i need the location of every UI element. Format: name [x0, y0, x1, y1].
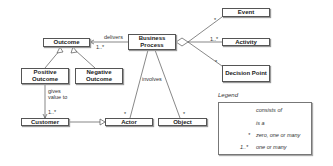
legend-zero-one-many: zero, one or many [256, 132, 300, 138]
entity-negative-outcome[interactable]: Negative Outcome [75, 68, 123, 84]
entity-label: Activity [235, 39, 257, 46]
entity-event[interactable]: Event [222, 8, 270, 17]
legend-one-or-many: one or many [256, 144, 287, 150]
entity-actor[interactable]: Actor [105, 118, 153, 126]
relation-object-multiplicity: * [183, 111, 185, 117]
entity-label: Negative Outcome [76, 69, 122, 83]
entity-label: Decision Point [225, 70, 267, 77]
entity-decision-point[interactable]: Decision Point [222, 65, 270, 82]
legend-one-many-symbol: 1..* [240, 144, 248, 150]
entity-positive-outcome[interactable]: Positive Outcome [21, 68, 69, 84]
relation-actor-multiplicity: * [124, 111, 126, 117]
entity-label: Object [173, 119, 192, 126]
relation-event-multiplicity: * [214, 17, 216, 23]
entity-customer[interactable]: Customer [21, 118, 69, 126]
relation-delivers-multiplicity: 1..* [96, 44, 104, 50]
relation-delivers-label: delivers [104, 34, 123, 40]
entity-label: Positive Outcome [22, 69, 68, 83]
legend-is-a: is a [256, 120, 265, 126]
entity-label: Outcome [53, 39, 79, 46]
entity-outcome[interactable]: Outcome [43, 38, 90, 47]
relation-involves-label: involves [142, 76, 162, 82]
relation-decision-multiplicity: * [215, 59, 217, 65]
entity-business-process[interactable]: Business Process [128, 34, 176, 50]
entity-object[interactable]: Object [158, 118, 207, 126]
entity-activity[interactable]: Activity [222, 38, 270, 46]
relation-activity-multiplicity: 1..* [210, 36, 218, 42]
entity-label: Business Process [129, 35, 175, 49]
entity-label: Event [238, 9, 254, 16]
legend-title: Legend [218, 92, 238, 98]
relation-gives-value-to-label: gives value to [48, 88, 70, 100]
legend-star-symbol: * [248, 132, 250, 138]
relation-gives-value-multiplicity: 1..* [48, 109, 56, 115]
entity-label: Customer [31, 119, 59, 126]
entity-label: Actor [121, 119, 137, 126]
legend-consists-of: consists of [256, 107, 282, 113]
